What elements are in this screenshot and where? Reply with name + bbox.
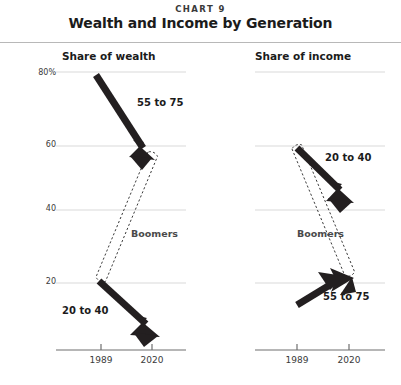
chart-container: CHART 9 Wealth and Income by Generation … bbox=[0, 0, 401, 385]
gridlines-right bbox=[255, 72, 385, 283]
arrow-right-20-to-40 bbox=[297, 148, 354, 213]
arrow-left-55-to-75 bbox=[96, 75, 155, 170]
arrow-left-20-to-40 bbox=[99, 281, 160, 347]
gridlines-left bbox=[56, 72, 186, 283]
x-axis-right bbox=[255, 344, 385, 350]
chart-graphics bbox=[0, 0, 401, 385]
arrow-right-55-to-75 bbox=[297, 268, 356, 305]
x-axis-left bbox=[56, 344, 186, 350]
boomers-outline-left bbox=[96, 152, 158, 282]
